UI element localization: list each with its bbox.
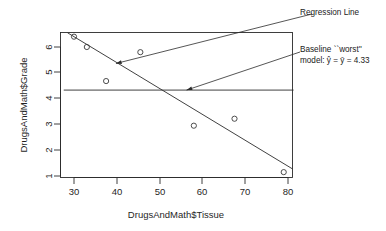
data-point bbox=[191, 123, 196, 128]
data-points bbox=[71, 34, 286, 175]
regression-line-arrow bbox=[116, 14, 312, 64]
data-point bbox=[281, 170, 286, 175]
y-tick-label-6: 6 bbox=[43, 44, 54, 49]
regression-line bbox=[68, 33, 293, 169]
baseline-annotation-line-1: Baseline ``worst'' bbox=[300, 44, 370, 55]
plot-canvas: 6 5 4 3 2 1 DrugsAndMath$Grade 30 40 50 … bbox=[0, 0, 386, 231]
annotation-leaders bbox=[116, 14, 312, 90]
baseline-annotation-label: Baseline ``worst'' model: ŷ = ȳ = 4.33 bbox=[300, 44, 370, 66]
data-point bbox=[138, 50, 143, 55]
scatter-plot-figure: 6 5 4 3 2 1 DrugsAndMath$Grade 30 40 50 … bbox=[0, 0, 386, 231]
baseline-arrow bbox=[187, 52, 300, 90]
x-tick-label-80: 80 bbox=[283, 186, 294, 197]
y-tick-label-3: 3 bbox=[43, 121, 54, 126]
x-tick-label-70: 70 bbox=[240, 186, 251, 197]
y-axis-ticks bbox=[54, 47, 61, 176]
x-tick-label-30: 30 bbox=[69, 186, 80, 197]
y-tick-label-4: 4 bbox=[43, 95, 54, 100]
y-axis-title: DrugsAndMath$Grade bbox=[18, 57, 29, 152]
series-lines bbox=[64, 33, 294, 169]
y-tick-label-2: 2 bbox=[43, 147, 54, 152]
x-tick-labels: 30 40 50 60 70 80 bbox=[69, 186, 294, 197]
x-tick-label-60: 60 bbox=[197, 186, 208, 197]
x-axis-title: DrugsAndMath$Tissue bbox=[128, 209, 224, 220]
x-axis-ticks bbox=[74, 178, 288, 185]
baseline-arrowhead bbox=[187, 86, 193, 90]
y-tick-label-5: 5 bbox=[43, 69, 54, 74]
data-point bbox=[232, 116, 237, 121]
x-tick-label-50: 50 bbox=[155, 186, 166, 197]
data-point bbox=[84, 44, 89, 49]
data-point bbox=[104, 78, 109, 83]
y-tick-label-1: 1 bbox=[43, 173, 54, 178]
x-tick-label-40: 40 bbox=[112, 186, 123, 197]
regression-line-annotation-label: Regression Line bbox=[300, 8, 359, 17]
plot-frame bbox=[61, 33, 293, 178]
baseline-annotation-line-2: model: ŷ = ȳ = 4.33 bbox=[300, 55, 370, 66]
y-tick-labels: 6 5 4 3 2 1 bbox=[43, 44, 54, 178]
